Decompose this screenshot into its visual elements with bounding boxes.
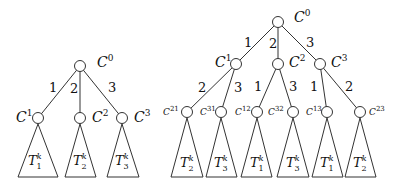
node bbox=[252, 107, 263, 118]
edge-label: 2 bbox=[70, 81, 78, 96]
edge-label: 1 bbox=[244, 35, 252, 50]
node-root bbox=[75, 61, 86, 72]
node-label: C12 bbox=[235, 105, 251, 117]
node bbox=[315, 59, 326, 70]
edge-label: 3 bbox=[234, 80, 242, 95]
edge-label: 3 bbox=[108, 80, 116, 95]
edge-label: 1 bbox=[49, 80, 57, 95]
node-label: C32 bbox=[268, 105, 284, 117]
edge-label: 3 bbox=[306, 35, 314, 50]
edge-label: 1 bbox=[254, 79, 262, 94]
left-tree: 1 2 3 C0 C1 C2 C3 Tk1 Tk2 Tk3 bbox=[16, 53, 151, 177]
node-label: C1 bbox=[215, 53, 231, 70]
node bbox=[33, 113, 44, 124]
node-label: C3 bbox=[331, 53, 348, 70]
node bbox=[216, 107, 227, 118]
node bbox=[117, 113, 128, 124]
right-tree: 1 2 3 2 3 1 3 1 2 C0 C1 C2 C3 C21 C31 bbox=[163, 8, 385, 177]
node-label: C0 bbox=[97, 53, 114, 70]
node bbox=[355, 107, 366, 118]
node-label: C2 bbox=[92, 108, 108, 125]
node-label: C13 bbox=[306, 105, 322, 117]
tree-diagram: 1 2 3 C0 C1 C2 C3 Tk1 Tk2 Tk3 bbox=[0, 0, 402, 193]
node bbox=[288, 107, 299, 118]
node bbox=[75, 113, 86, 124]
edge-label: 2 bbox=[269, 36, 277, 51]
node-root bbox=[273, 17, 284, 28]
edge-label: 2 bbox=[345, 79, 353, 94]
node-label: C0 bbox=[294, 8, 311, 25]
edge-label: 3 bbox=[289, 79, 297, 94]
node bbox=[182, 107, 193, 118]
edge-label: 1 bbox=[310, 79, 318, 94]
subtree-triangle bbox=[65, 124, 96, 177]
edge-label: 2 bbox=[198, 80, 206, 95]
node-label: C23 bbox=[369, 105, 385, 117]
node-label: C1 bbox=[16, 108, 32, 125]
node bbox=[322, 107, 333, 118]
node-label: C2 bbox=[289, 53, 305, 70]
node-label: C31 bbox=[200, 105, 216, 117]
node-label: C3 bbox=[134, 108, 151, 125]
node bbox=[273, 59, 284, 70]
node-label: C21 bbox=[163, 105, 179, 117]
node bbox=[231, 59, 242, 70]
